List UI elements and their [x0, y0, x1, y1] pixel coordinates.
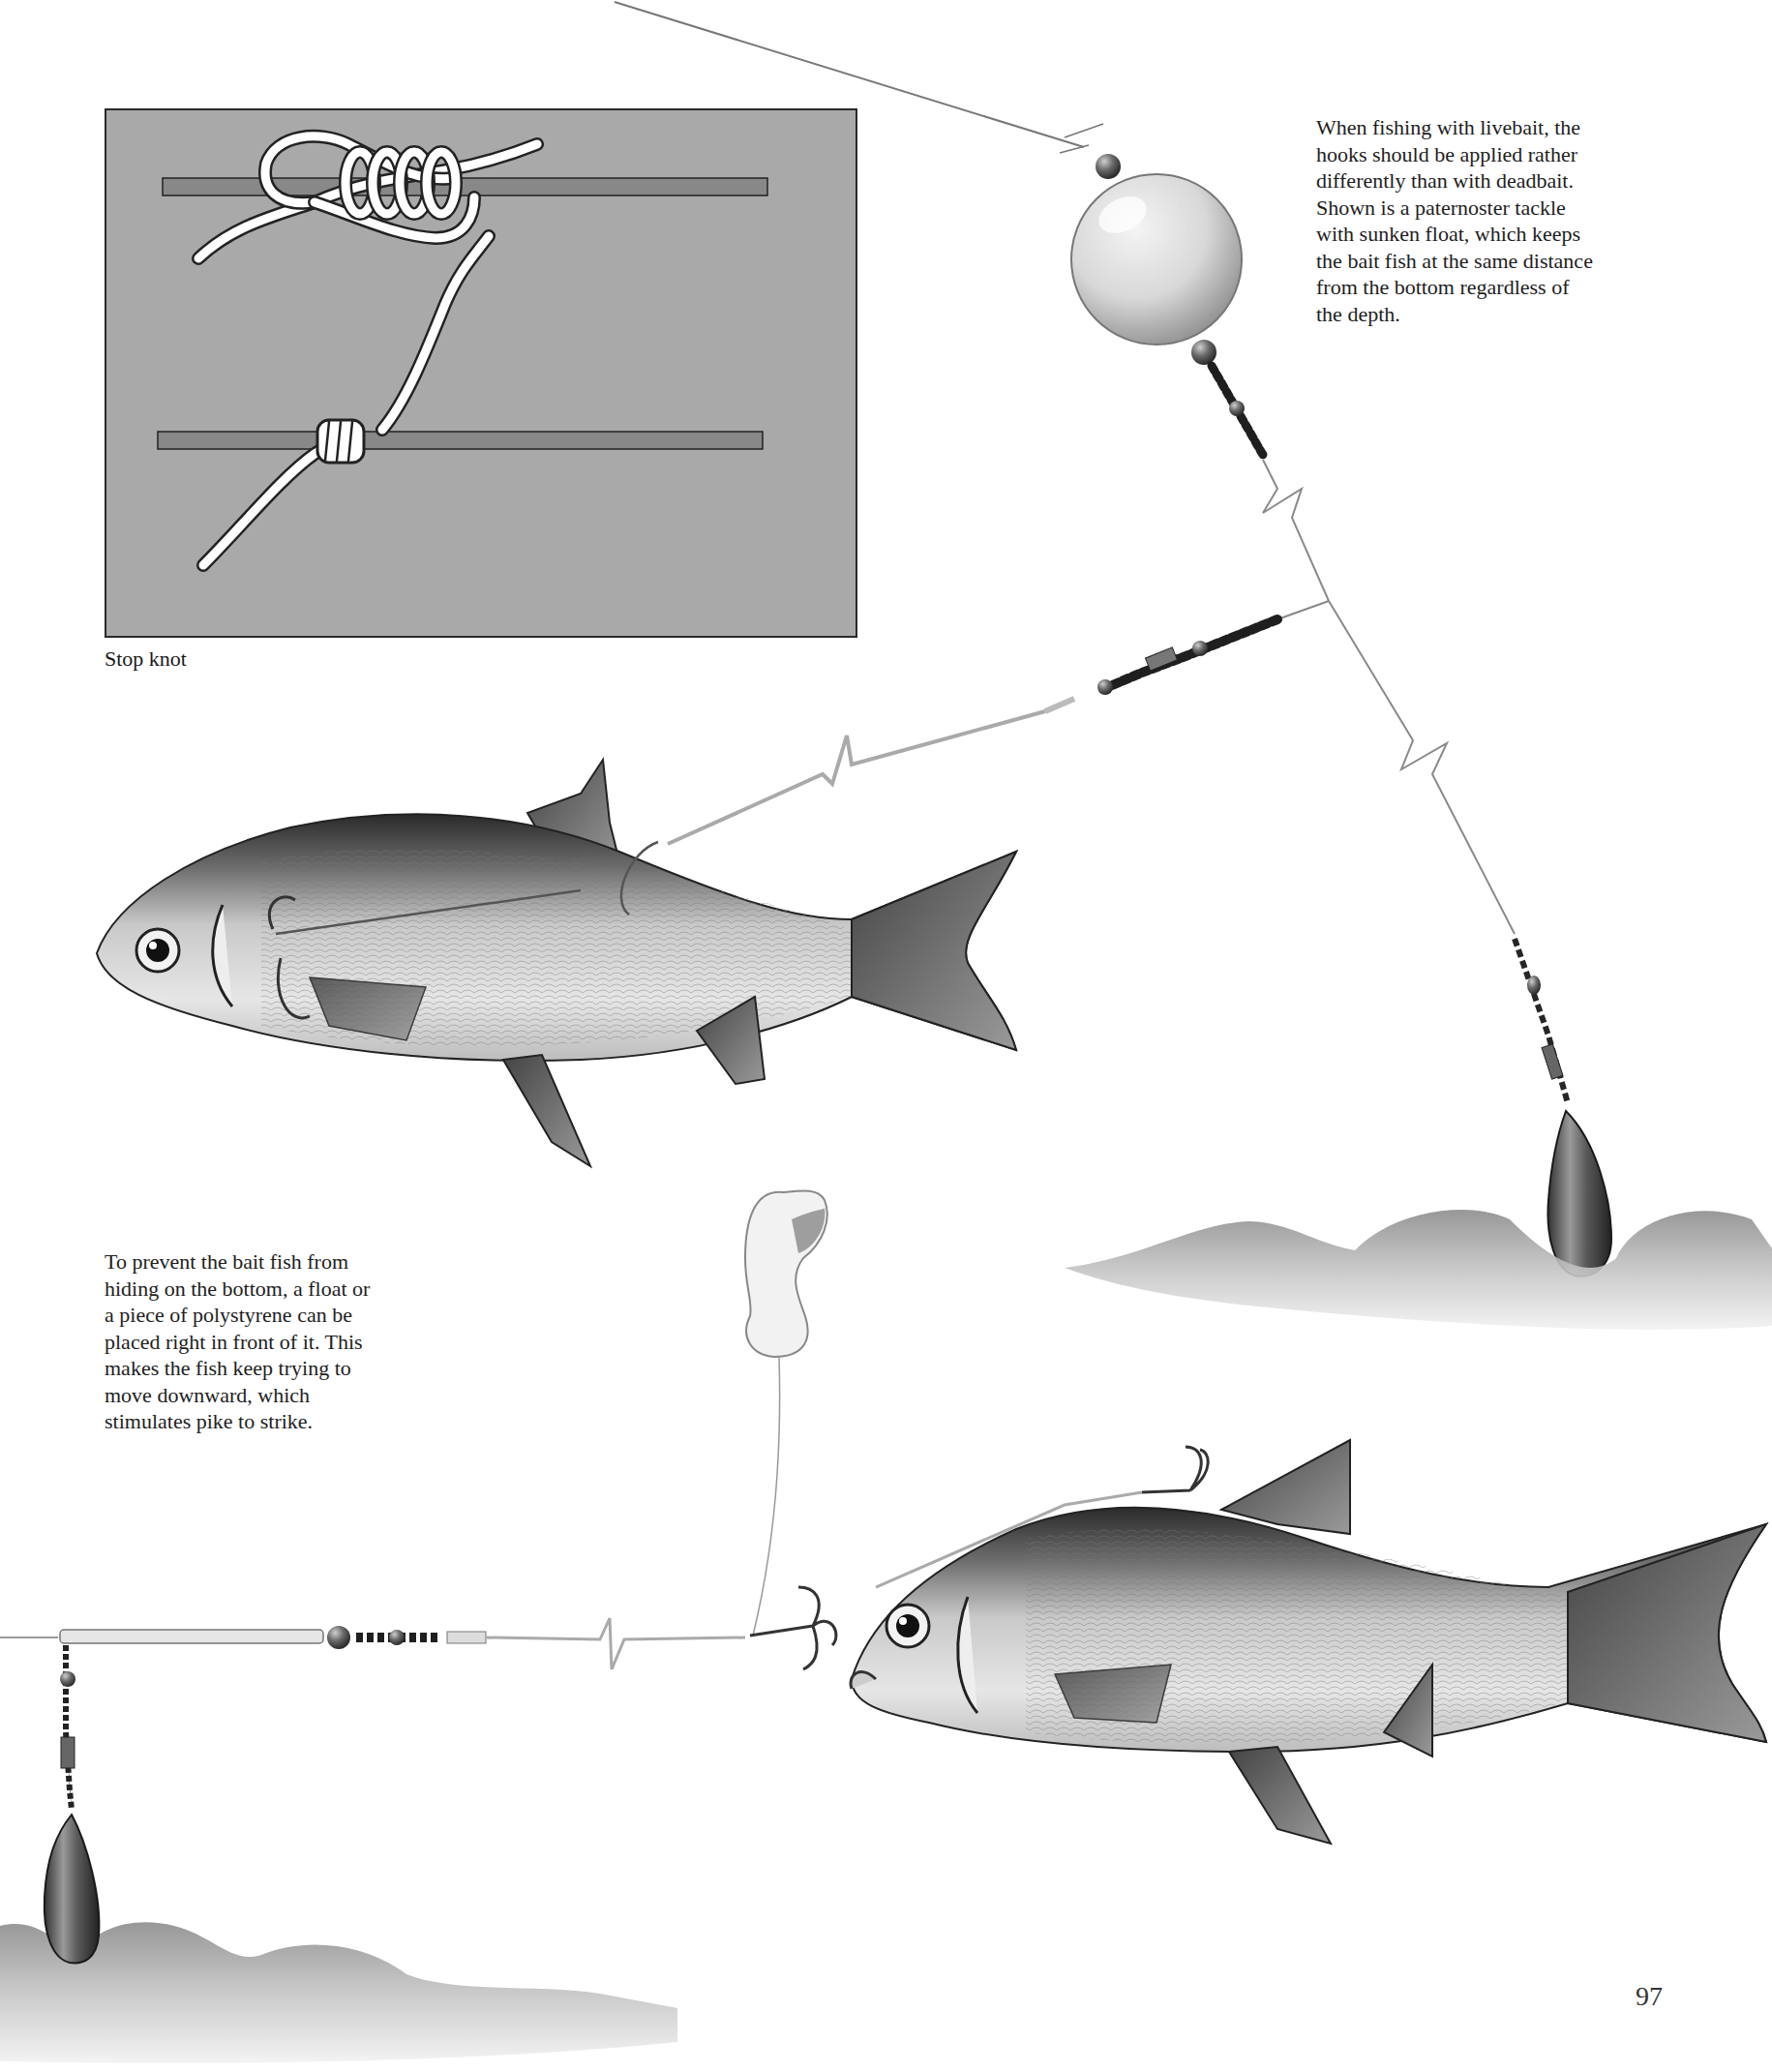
- riverbed-left: [0, 1922, 677, 2063]
- caption-line: hiding on the bottom, a float or: [105, 1276, 370, 1303]
- boom-rig: [0, 1618, 745, 1963]
- caption-line: with sunken float, which keeps: [1316, 221, 1593, 248]
- polystyrene-float: [745, 1190, 827, 1636]
- caption-line: move downward, which: [105, 1382, 370, 1409]
- polystyrene-caption: To prevent the bait fish from hiding on …: [105, 1248, 370, 1435]
- stop-knot-caption: Stop knot: [105, 646, 187, 672]
- caption-line: hooks should be applied rather: [1316, 141, 1593, 168]
- bait-fish-upper: [97, 760, 1016, 1166]
- sunken-float: [1071, 154, 1242, 365]
- swivel: [1212, 366, 1263, 455]
- riverbed-right: [1065, 1210, 1772, 1330]
- caption-line: placed right in front of it. This: [105, 1329, 370, 1356]
- stop-knot-diagram: [105, 108, 857, 638]
- caption-line: the bait fish at the same distance: [1316, 248, 1593, 275]
- caption-line: makes the fish keep trying to: [105, 1355, 370, 1382]
- caption-line: from the bottom regardless of: [1316, 274, 1593, 301]
- caption-line: To prevent the bait fish from: [105, 1248, 370, 1276]
- caption-line: Shown is a paternoster tackle: [1316, 195, 1593, 222]
- caption-line: the depth.: [1316, 301, 1593, 328]
- caption-line: When fishing with livebait, the: [1316, 114, 1593, 141]
- bait-fish-lower: [750, 1440, 1766, 1844]
- sinker-rig-right: [1515, 939, 1611, 1276]
- livebait-caption: When fishing with livebait, the hooks sh…: [1316, 114, 1593, 327]
- caption-line: differently than with deadbait.: [1316, 167, 1593, 195]
- caption-line: a piece of polystyrene can be: [105, 1302, 370, 1329]
- caption-line: stimulates pike to strike.: [105, 1408, 370, 1435]
- page-number: 97: [1636, 1981, 1663, 2012]
- stop-knot-illustration: [106, 110, 856, 636]
- paternoster-line: [1263, 460, 1515, 934]
